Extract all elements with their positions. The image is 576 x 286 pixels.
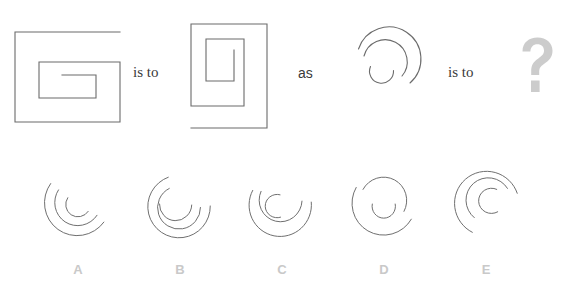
option-b-label: B — [168, 262, 192, 277]
analogy-puzzle: is to as is to — [0, 0, 576, 286]
stimulus-square-spiral-horizontal[interactable] — [12, 22, 124, 126]
stimulus-circular-spiral[interactable] — [340, 26, 424, 110]
question-mark-icon — [517, 36, 557, 94]
circular-spiral-icon — [340, 26, 424, 110]
option-d[interactable] — [343, 164, 425, 248]
option-b[interactable] — [139, 164, 221, 248]
option-c-spiral-icon — [241, 164, 323, 248]
square-spiral-horizontal-icon — [12, 22, 124, 126]
connector-as: as — [298, 65, 313, 81]
option-a[interactable] — [37, 164, 119, 248]
option-d-spiral-icon — [343, 164, 425, 248]
option-a-spiral-icon — [37, 164, 119, 248]
option-c-label: C — [270, 262, 294, 277]
square-spiral-vertical-icon — [187, 22, 271, 130]
option-b-spiral-icon — [139, 164, 221, 248]
connector-is-to-1: is to — [133, 64, 158, 81]
connector-is-to-2: is to — [448, 64, 473, 81]
stimulus-square-spiral-vertical[interactable] — [187, 22, 271, 130]
option-e-label: E — [474, 262, 498, 277]
option-d-label: D — [372, 262, 396, 277]
option-a-label: A — [66, 262, 90, 277]
answer-placeholder[interactable] — [517, 36, 557, 94]
option-e[interactable] — [445, 160, 527, 248]
option-c[interactable] — [241, 164, 323, 248]
option-e-spiral-icon — [445, 160, 527, 248]
